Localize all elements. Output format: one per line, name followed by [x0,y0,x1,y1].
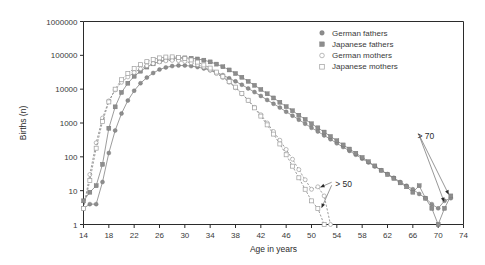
data-point [259,94,263,98]
data-point [373,164,377,168]
data-point [221,74,225,78]
data-point [272,102,276,106]
data-point [303,122,307,126]
legend-label: Japanese mothers [332,62,398,71]
x-tick-label: 46 [282,231,291,240]
data-point [405,185,409,189]
data-point [164,65,168,69]
data-point [284,105,288,109]
data-point [278,106,282,110]
data-point [94,146,98,150]
y-tick-label: 1000 [60,119,78,128]
data-point [151,71,155,75]
data-point [145,60,149,64]
data-point [151,62,155,66]
data-point [234,85,238,89]
data-point [329,223,333,227]
data-point [436,223,440,227]
data-point [202,63,206,67]
data-point [310,199,314,203]
data-point [316,206,320,210]
data-point [329,134,333,138]
data-point [215,70,219,74]
x-tick-label: 30 [180,231,189,240]
data-point [284,153,288,157]
data-point [132,89,136,93]
data-point [82,206,86,210]
y-tick-label: 1000000 [46,18,78,27]
data-point [88,178,92,182]
data-point [215,62,219,66]
data-point [303,117,307,121]
data-point [246,86,250,90]
x-tick-label: 50 [307,231,316,240]
data-point [107,100,111,104]
data-point [265,98,269,102]
data-point [322,130,326,134]
data-point [240,83,244,87]
data-point [183,56,187,60]
data-point [297,113,301,117]
data-point [310,122,314,126]
data-point [272,96,276,100]
series-line [84,60,331,224]
data-point [253,83,257,87]
data-point [189,58,193,62]
data-point [151,57,155,61]
data-point [132,71,136,75]
data-point [265,92,269,96]
data-point [221,65,225,69]
data-point [234,79,238,83]
legend-label: Japanese fathers [332,40,393,49]
data-point [360,155,364,159]
data-point [303,187,307,191]
data-point [170,64,174,68]
data-point [411,190,415,194]
data-point [145,76,149,80]
data-point [443,206,447,210]
data-point [449,194,453,198]
data-point [227,68,231,72]
x-tick-label: 22 [130,231,139,240]
leader-line [419,134,449,195]
data-point [139,63,143,67]
data-point [316,126,320,130]
series-japanese-mothers [82,55,327,227]
data-point [278,142,282,146]
data-point [107,151,111,155]
data-point [417,192,421,196]
data-point [424,196,428,200]
data-point [386,173,390,177]
data-point [417,184,421,188]
x-tick-label: 34 [206,231,215,240]
data-point [164,55,168,59]
data-point [291,164,295,168]
data-point [320,42,325,47]
data-point [272,132,276,136]
data-point [316,130,320,134]
data-point [177,55,181,59]
data-point [120,78,124,82]
data-point [234,72,238,76]
data-point [335,139,339,143]
data-point [101,180,105,184]
data-point [132,66,136,70]
data-point [284,110,288,114]
data-point [240,75,244,79]
data-point [126,99,130,103]
data-point [139,67,143,71]
legend-label: German mothers [332,51,392,60]
data-point [139,81,143,85]
data-point [320,53,325,58]
data-point [94,184,98,188]
data-point [265,123,269,127]
data-point [379,168,383,172]
chart-canvas: 1101001000100001000001000000141822263034… [0,0,485,265]
data-point [113,87,117,91]
data-point [158,56,162,60]
data-point [246,79,250,83]
x-tick-label: 62 [383,231,392,240]
x-tick-label: 38 [231,231,240,240]
data-point [316,185,320,189]
y-tick-label: 10000 [55,85,78,94]
